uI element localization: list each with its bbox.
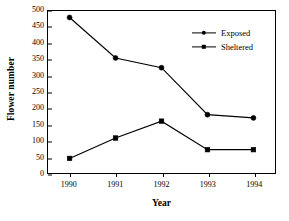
y-axis-tick: [48, 76, 52, 77]
x-axis-tick-labels: 19901991199219931994: [47, 180, 276, 192]
y-tick-label: 250: [32, 88, 44, 96]
data-point-sheltered-1990: [67, 156, 72, 161]
y-axis-tick: [48, 125, 52, 126]
y-axis-title: Flower number: [0, 0, 22, 178]
x-tick-label: 1991: [107, 180, 123, 189]
y-axis-tick: [48, 43, 52, 44]
legend-label-exposed: Exposed: [221, 28, 250, 38]
y-axis-tick: [48, 60, 52, 61]
y-axis-tick-labels: 050100150200250300350400450500: [20, 10, 44, 174]
x-axis-title: Year: [47, 198, 276, 208]
legend-sample-exposed: [192, 28, 216, 38]
data-point-exposed-1994: [251, 115, 256, 120]
y-axis-tick: [48, 109, 52, 110]
y-axis-tick: [48, 93, 52, 94]
x-tick-label: 1993: [200, 180, 216, 189]
y-axis-tick: [48, 27, 52, 28]
x-axis-tick: [116, 173, 117, 177]
y-tick-label: 350: [32, 55, 44, 63]
legend-label-sheltered: Sheltered: [221, 42, 253, 52]
data-point-sheltered-1991: [113, 136, 118, 141]
legend-sample-sheltered: [192, 42, 216, 52]
data-point-exposed-1990: [67, 15, 72, 20]
x-axis-tick: [209, 173, 210, 177]
square-marker-icon: [202, 45, 206, 49]
y-axis-tick: [48, 175, 52, 176]
y-tick-label: 200: [32, 104, 44, 112]
y-axis-tick: [48, 11, 52, 12]
x-axis-tick: [70, 173, 71, 177]
series-line-sheltered: [70, 121, 254, 158]
x-tick-label: 1992: [154, 180, 170, 189]
data-point-sheltered-1992: [159, 119, 164, 124]
x-tick-label: 1994: [246, 180, 262, 189]
y-tick-label: 500: [32, 6, 44, 14]
y-tick-label: 300: [32, 72, 44, 80]
data-point-exposed-1991: [113, 56, 118, 61]
data-point-sheltered-1993: [205, 147, 210, 152]
data-point-exposed-1993: [205, 112, 210, 117]
x-axis-tick: [255, 173, 256, 177]
y-tick-label: 450: [32, 22, 44, 30]
y-axis-tick: [48, 142, 52, 143]
x-tick-label: 1990: [61, 180, 77, 189]
circle-marker-icon: [202, 31, 206, 35]
y-tick-label: 150: [32, 121, 44, 129]
data-point-sheltered-1994: [251, 147, 256, 152]
y-tick-label: 100: [32, 137, 44, 145]
legend-item-sheltered: Sheltered: [192, 40, 274, 54]
legend-item-exposed: Exposed: [192, 26, 274, 40]
y-axis-tick: [48, 158, 52, 159]
y-axis-title-text: Flower number: [6, 57, 16, 121]
x-axis-tick: [163, 173, 164, 177]
y-tick-label: 400: [32, 39, 44, 47]
flower-number-line-chart: Flower number 05010015020025030035040045…: [0, 0, 289, 221]
chart-legend: Exposed Sheltered: [192, 26, 274, 54]
y-tick-label: 0: [40, 170, 44, 178]
data-point-exposed-1992: [159, 65, 164, 70]
y-tick-label: 50: [36, 154, 44, 162]
